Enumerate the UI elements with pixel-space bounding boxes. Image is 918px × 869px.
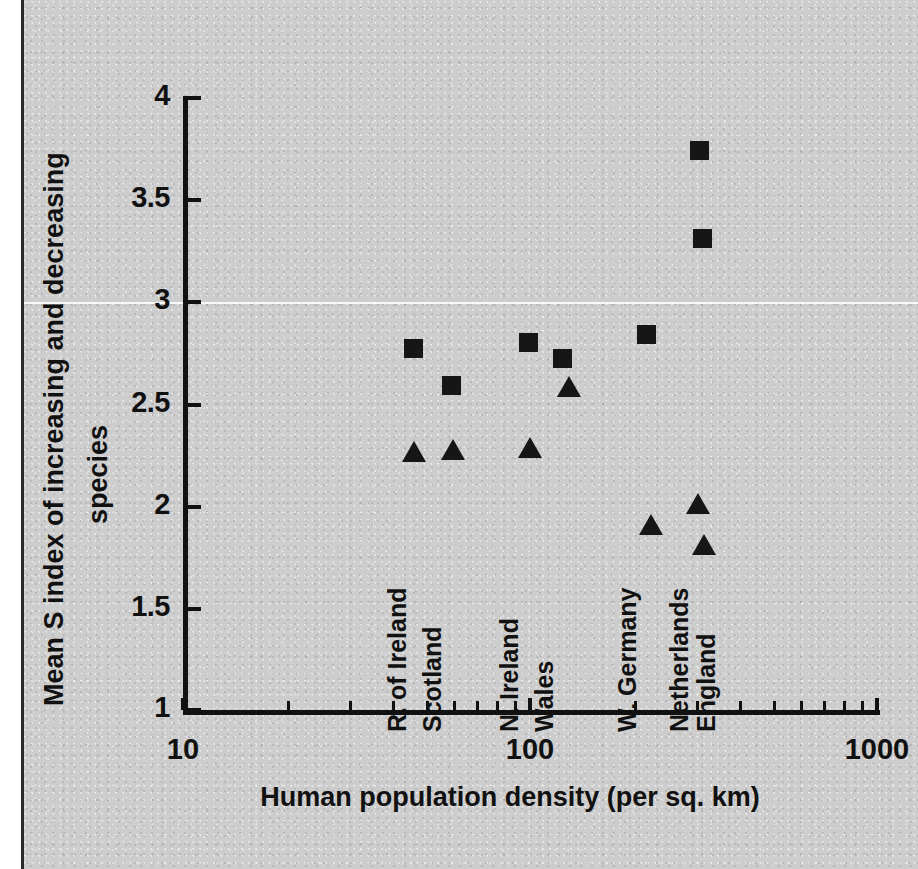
point-label-w-germany: W. Germany [613, 588, 642, 733]
data-point-triangle-r-of-ireland [402, 441, 426, 462]
y-axis-title-line1: Mean S index of increasing and decreasin… [39, 152, 70, 706]
x-tick-900 [861, 701, 864, 710]
y-tick-1 [188, 708, 201, 712]
data-point-triangle-scotland [441, 439, 465, 460]
data-point-square-scotland [442, 376, 461, 395]
scatter-plot: 4 3.5 3 2.5 2 1.5 1 10 100 1000 Human po… [0, 0, 918, 869]
point-label-wales: Wales [530, 661, 559, 732]
data-point-square-r-of-ireland [404, 339, 423, 358]
x-tick-30 [349, 701, 352, 710]
point-label-england: England [692, 633, 721, 732]
data-point-square-wales [553, 349, 572, 368]
x-tick-600 [800, 701, 803, 710]
x-tick-400 [739, 701, 742, 710]
x-axis-title: Human population density (per sq. km) [140, 782, 880, 813]
data-point-triangle-n-ireland [518, 437, 542, 458]
y-tick-3.5 [188, 198, 201, 202]
x-tick-700 [823, 701, 826, 710]
x-tick-60 [453, 701, 456, 710]
x-tick-label-10: 10 [118, 733, 248, 766]
data-point-triangle-netherlands [686, 493, 710, 514]
point-label-n-ireland: N. Ireland [495, 618, 524, 732]
scanned-figure-page: 4 3.5 3 2.5 2 1.5 1 10 100 1000 Human po… [0, 0, 918, 869]
x-tick-label-100: 100 [465, 733, 595, 766]
y-tick-1.5 [188, 607, 201, 611]
y-tick-4 [188, 96, 201, 100]
point-label-netherlands: Netherlands [665, 588, 694, 732]
y-axis-title: Mean S index of increasing and decreasin… [28, 96, 148, 714]
x-tick-500 [773, 701, 776, 710]
data-point-triangle-wales [557, 376, 581, 397]
x-tick-20 [287, 701, 290, 710]
point-label-r-of-ireland: R. of Ireland [383, 588, 412, 732]
y-axis-title-line2: species [83, 425, 114, 524]
data-point-square-netherlands [690, 141, 709, 160]
data-point-triangle-england [692, 534, 716, 555]
data-point-square-n-ireland [519, 333, 538, 352]
data-point-square-w-germany [637, 325, 656, 344]
y-tick-2.5 [188, 403, 201, 407]
point-label-scotland: Scotland [418, 626, 447, 732]
y-tick-2 [188, 505, 201, 509]
x-tick-10 [181, 698, 185, 710]
x-tick-800 [843, 701, 846, 710]
x-tick-70 [476, 701, 479, 710]
x-tick-1000 [875, 698, 879, 710]
data-point-square-england [693, 229, 712, 248]
x-tick-label-1000: 1000 [812, 733, 918, 766]
y-tick-3 [188, 300, 201, 304]
data-point-triangle-w-germany [639, 514, 663, 535]
